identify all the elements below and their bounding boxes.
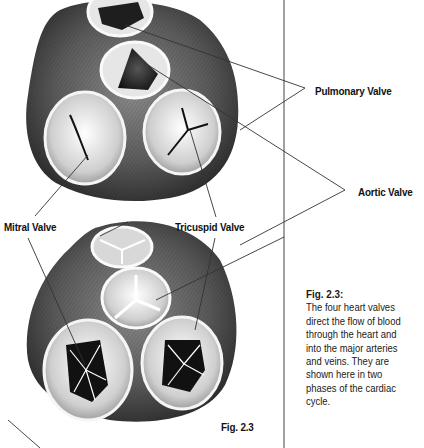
label-pulmonary-valve: Pulmonary Valve	[315, 85, 392, 97]
heart-top-phase	[26, 0, 238, 201]
figure-caption: Fig. 2.3: The four heart valves direct t…	[306, 288, 409, 409]
figure-number: Fig. 2.3	[221, 421, 254, 433]
caption-line: cycle.	[306, 395, 423, 408]
caption-line: into the major arteries	[306, 342, 423, 355]
caption-line: shown here in two	[306, 368, 423, 381]
caption-line: phases of the cardiac	[306, 382, 423, 395]
caption-title: Fig. 2.3:	[306, 288, 409, 301]
caption-line: through the heart and	[306, 328, 423, 341]
label-mitral-valve: Mitral Valve	[4, 221, 56, 233]
label-aortic-valve: Aortic Valve	[358, 186, 413, 198]
caption-line: The four heart valves	[306, 301, 423, 314]
caption-line: and veins. They are	[306, 355, 423, 368]
caption-line: direct the flow of blood	[306, 315, 423, 328]
heart-bottom-phase	[27, 221, 237, 421]
label-tricuspid-valve: Tricuspid Valve	[175, 221, 244, 233]
